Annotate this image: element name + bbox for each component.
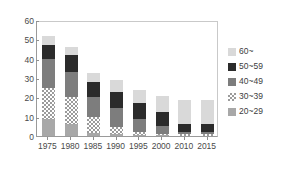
- legend-swatch-icon: [228, 78, 236, 86]
- legend-swatch-icon: [228, 108, 236, 116]
- y-tick-label: 0: [4, 133, 34, 142]
- bar-segment: [201, 132, 214, 134]
- bar-segment: [87, 97, 100, 116]
- y-tick-mark: [36, 98, 39, 99]
- bar-2000: [156, 20, 169, 136]
- legend-item-40-49: 40~49: [228, 74, 286, 89]
- bar-segment: [133, 119, 146, 133]
- legend-item-60-: 60~: [228, 44, 286, 59]
- bar-segment: [42, 119, 55, 136]
- legend-item-50-59: 50~59: [228, 59, 286, 74]
- bars-layer: [37, 22, 217, 136]
- bar-segment: [156, 135, 169, 136]
- legend-label: 50~59: [239, 62, 263, 71]
- bar-segment: [110, 92, 123, 109]
- bar-segment: [65, 72, 78, 97]
- bar-segment: [42, 59, 55, 88]
- legend-label: 60~: [239, 47, 253, 56]
- bar-1980: [65, 20, 78, 136]
- bar-1990: [110, 20, 123, 136]
- bar-segment: [87, 82, 100, 97]
- y-tick-label: 40: [4, 56, 34, 65]
- plot-area: [36, 21, 218, 137]
- x-tick-mark: [138, 137, 139, 140]
- bar-segment: [42, 36, 55, 45]
- x-tick-mark: [184, 137, 185, 140]
- bar-segment: [156, 126, 169, 134]
- y-tick-mark: [36, 21, 39, 22]
- bar-segment: [110, 134, 123, 136]
- bar-segment: [178, 124, 191, 132]
- legend-swatch-icon: [228, 93, 236, 101]
- bar-segment: [65, 55, 78, 72]
- bar-segment: [87, 133, 100, 136]
- bar-segment: [178, 132, 191, 135]
- legend-item-20-29: 20~29: [228, 104, 286, 119]
- bar-segment: [156, 96, 169, 111]
- bar-segment: [178, 134, 191, 136]
- bar-segment: [133, 132, 146, 135]
- bar-segment: [133, 103, 146, 118]
- x-tick-mark: [70, 137, 71, 140]
- bar-segment: [133, 135, 146, 136]
- bar-segment: [201, 100, 214, 124]
- bar-segment: [87, 117, 100, 133]
- bar-segment: [110, 108, 123, 126]
- bar-segment: [156, 112, 169, 127]
- bar-2010: [178, 20, 191, 136]
- bar-1975: [42, 20, 55, 136]
- bar-segment: [87, 73, 100, 82]
- y-tick-mark: [36, 118, 39, 119]
- y-tick-label: 30: [4, 75, 34, 84]
- y-tick-label: 50: [4, 36, 34, 45]
- x-tick-mark: [47, 137, 48, 140]
- x-tick-label: 2015: [191, 142, 223, 151]
- x-tick-mark: [116, 137, 117, 140]
- bar-segment: [110, 127, 123, 135]
- bar-segment: [133, 90, 146, 104]
- bar-segment: [65, 97, 78, 124]
- y-tick-mark: [36, 60, 39, 61]
- y-tick-label: 20: [4, 94, 34, 103]
- y-tick-label: 10: [4, 114, 34, 123]
- legend-label: 20~29: [239, 107, 263, 116]
- bar-segment: [110, 80, 123, 92]
- bar-segment: [42, 45, 55, 59]
- bar-segment: [65, 47, 78, 55]
- x-tick-mark: [207, 137, 208, 140]
- bar-segment: [178, 100, 191, 124]
- y-tick-label: 60: [4, 17, 34, 26]
- y-axis: 0102030405060: [0, 21, 34, 137]
- legend-label: 40~49: [239, 77, 263, 86]
- bar-1995: [133, 20, 146, 136]
- legend-item-30-39: 30~39: [228, 89, 286, 104]
- x-tick-mark: [161, 137, 162, 140]
- bar-2015: [201, 20, 214, 136]
- bar-segment: [42, 88, 55, 119]
- bar-1985: [87, 20, 100, 136]
- x-tick-mark: [93, 137, 94, 140]
- bar-segment: [65, 124, 78, 136]
- chart-legend: 60~50~5940~4930~3920~29: [228, 44, 286, 119]
- stacked-bar-chart: 0102030405060 60~50~5940~4930~3920~29 19…: [0, 0, 289, 170]
- y-tick-mark: [36, 40, 39, 41]
- legend-swatch-icon: [228, 48, 236, 56]
- y-tick-mark: [36, 79, 39, 80]
- bar-segment: [201, 124, 214, 132]
- legend-swatch-icon: [228, 63, 236, 71]
- bar-segment: [201, 134, 214, 136]
- bar-segment: [156, 134, 169, 135]
- legend-label: 30~39: [239, 92, 263, 101]
